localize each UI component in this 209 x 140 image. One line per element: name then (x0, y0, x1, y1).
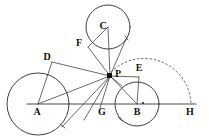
vertex-label-E: E (136, 63, 143, 73)
segment-C-to-P (108, 27, 110, 76)
segment-P-to-A (38, 76, 110, 104)
vertex-label-A: A (33, 107, 40, 117)
vertex-label-C: C (99, 21, 106, 31)
vertex-label-H: H (186, 107, 194, 117)
vertex-label-D: D (43, 52, 50, 62)
vertex-label-B: B (134, 107, 141, 117)
point-marker-P (107, 73, 112, 78)
vertex-label-P: P (115, 69, 121, 79)
segment-A-to-D (38, 62, 52, 104)
point-marker-B (142, 102, 144, 104)
segment-P-to-B (110, 76, 137, 104)
vertex-label-F: F (76, 38, 82, 48)
segment-E-to-B (137, 77, 139, 104)
vertex-label-G: G (98, 107, 106, 117)
geometry-figure: A B C D E F G H P (0, 0, 209, 140)
dashed-arc-P-to-H (111, 58, 191, 104)
